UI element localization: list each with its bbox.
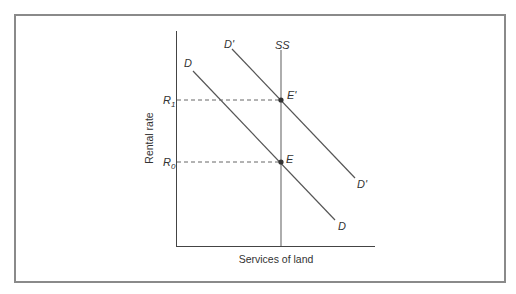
x-axis-label: Services of land <box>239 253 314 265</box>
demand-label-end: D <box>338 220 346 232</box>
demand-label-start: D <box>184 57 192 69</box>
equilibrium-label: E <box>286 153 294 165</box>
new-equilibrium-label: E' <box>287 89 297 101</box>
equilibrium-point-e <box>278 159 283 164</box>
r1-label: R1 <box>163 94 175 109</box>
new-demand-label-start: D' <box>224 38 235 50</box>
y-axis-label: Rental rate <box>143 112 155 164</box>
demand-line-d <box>193 71 335 220</box>
supply-label: SS <box>275 39 290 51</box>
demand-line-d-prime <box>232 49 355 178</box>
r0-label: R0 <box>163 156 176 171</box>
new-demand-label-end: D' <box>357 178 368 190</box>
equilibrium-point-e-prime <box>278 97 283 102</box>
supply-demand-diagram: SS D D' D' D E' E R1 R0 Services of land… <box>0 0 516 294</box>
